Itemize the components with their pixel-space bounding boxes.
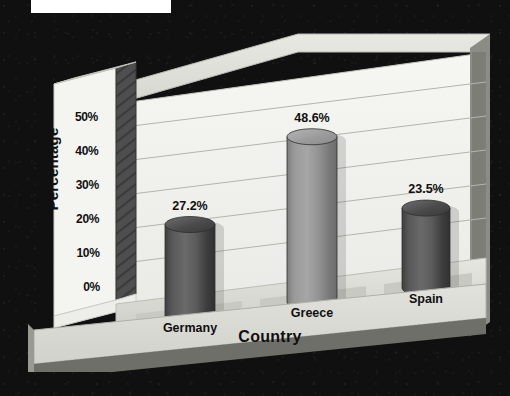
bar-value-label-greece: 48.6%: [280, 111, 344, 125]
bar-value-label-spain: 23.5%: [394, 182, 458, 196]
base-slab-left: [28, 324, 34, 372]
chart-3d-body: [20, 22, 490, 372]
bar-chart-3d: Percentage Country 50%40%30%20%10%0% Ger…: [20, 22, 490, 372]
y-axis-face: [54, 68, 116, 316]
y-tick-label-20: 20%: [59, 212, 99, 226]
bar-value-label-germany: 27.2%: [158, 199, 222, 213]
y-axis-hatched-side: [116, 62, 136, 300]
bar-germany: [165, 217, 224, 327]
bar-spain: [402, 200, 459, 298]
bar-greece: [287, 129, 346, 312]
category-label-spain: Spain: [384, 292, 468, 306]
y-tick-label-10: 10%: [60, 246, 100, 260]
y-tick-label-50: 50%: [58, 110, 98, 124]
bar-cylinder-body: [287, 137, 337, 310]
bar-cylinder-body: [402, 208, 450, 296]
y-tick-label-30: 30%: [59, 178, 99, 192]
y-tick-label-40: 40%: [58, 144, 98, 158]
bar-cylinder-cap: [165, 217, 215, 233]
bar-cylinder-body: [165, 225, 215, 325]
category-label-germany: Germany: [148, 321, 232, 335]
bar-cylinder-cap: [402, 200, 450, 216]
y-tick-label-0: 0%: [60, 280, 100, 294]
bar-cylinder-cap: [287, 129, 337, 145]
top-white-margin-strip: [31, 0, 171, 13]
category-label-greece: Greece: [270, 306, 354, 320]
